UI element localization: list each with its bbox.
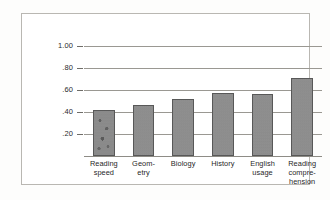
x-axis-category-label-line: History [203, 159, 243, 168]
gridline [84, 90, 322, 91]
gridline [84, 68, 322, 69]
x-axis-category-label-line: Reading [282, 159, 322, 168]
y-axis-tick-mark [77, 90, 83, 91]
y-axis-tick-mark [77, 134, 83, 135]
y-axis-tick-mark [77, 112, 83, 113]
x-axis-category-label: Geom-etry [124, 159, 164, 177]
gridline [84, 46, 322, 47]
x-axis-category-label-line: usage [243, 168, 283, 177]
x-axis-category-label-line: English [243, 159, 283, 168]
bar [252, 94, 274, 156]
x-axis-category-label-line: Reading [84, 159, 124, 168]
x-axis-category-label-line: hension [282, 177, 322, 186]
bar [212, 93, 234, 156]
x-axis-category-label-line: compre- [282, 168, 322, 177]
x-axis-category-label: Biology [163, 159, 203, 168]
gridline [84, 112, 322, 113]
y-axis-tick-label: .20 [62, 130, 73, 138]
y-axis-tick-mark [77, 46, 83, 47]
x-axis-category-label-line: Geom- [124, 159, 164, 168]
x-axis-category-label: Englishusage [243, 159, 283, 177]
y-axis-tick-label: .60 [62, 86, 73, 94]
bar [172, 99, 194, 156]
bar [133, 105, 155, 156]
x-axis-category-label-line: speed [84, 168, 124, 177]
figure-frame: Correlation with I.Q. 1.00.80.60.40.20 R… [21, 13, 310, 185]
category-label-group: ReadingspeedGeom-etryBiologyHistoryEngli… [84, 159, 322, 199]
x-axis-category-label: Readingspeed [84, 159, 124, 177]
y-axis-tick-mark [77, 68, 83, 69]
plot-area [84, 46, 322, 156]
x-axis-category-label: Readingcompre-hension [282, 159, 322, 187]
gridline [84, 134, 322, 135]
figure-root: Correlation with I.Q. 1.00.80.60.40.20 R… [0, 0, 330, 200]
y-axis-tick-label: 1.00 [58, 42, 73, 50]
y-axis-tick-label: .40 [62, 108, 73, 116]
bar [291, 78, 313, 156]
bar [93, 110, 115, 156]
x-axis-category-label-line: etry [124, 168, 164, 177]
axis-baseline [84, 156, 322, 157]
x-axis-category-label-line: Biology [163, 159, 203, 168]
y-axis-tick-label: .80 [62, 64, 73, 72]
x-axis-category-label: History [203, 159, 243, 168]
